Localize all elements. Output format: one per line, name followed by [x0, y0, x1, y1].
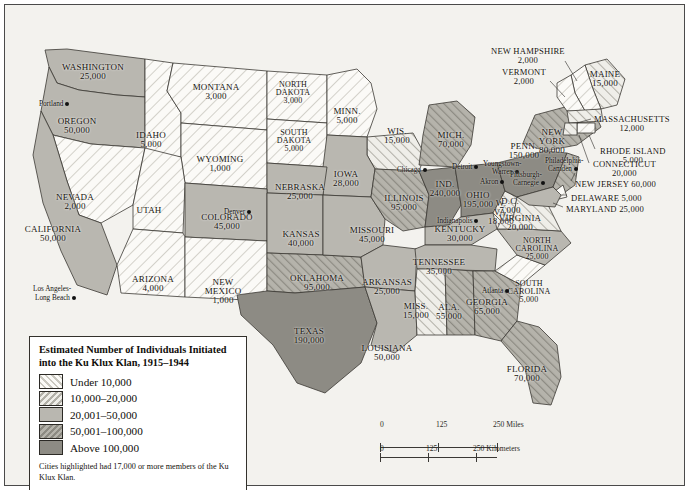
legend-swatch [39, 407, 63, 422]
city-name: Long Beach [35, 294, 70, 302]
state-shape-florida [501, 321, 561, 405]
scale-tick-label-km: 250 Kilometers [473, 444, 520, 453]
legend-title-line2: into the Ku Klux Klan, 1915–1944 [39, 357, 189, 368]
city-name: Portland [39, 100, 63, 108]
city-dot [574, 167, 578, 171]
legend-label: Above 100,000 [70, 442, 139, 454]
state-shape-iowa [323, 135, 375, 197]
state-shape-oklahoma [267, 253, 365, 293]
scale-tick-label-km: 0 [380, 444, 384, 453]
legend-swatch [39, 374, 63, 389]
state-shape-minnesota [327, 69, 377, 137]
city-dot [500, 180, 504, 184]
city-label: Long Beach [35, 294, 76, 302]
city-name: Chicago [397, 166, 421, 174]
state-shape-north-carolina [497, 229, 571, 265]
state-shape-michigan [419, 101, 475, 167]
map-figure: WASHINGTON25,000OREGON50,000IDAHO5,000MO… [0, 0, 689, 490]
scale-km-ruler [380, 453, 555, 462]
city-label: Atlanta [482, 287, 509, 295]
state-shape-texas [237, 287, 377, 393]
legend-row: 10,000–20,000 [39, 391, 237, 406]
state-shape-kansas [267, 193, 323, 255]
city-dot [247, 210, 251, 214]
scale-tick-label-miles: 0 [380, 420, 384, 429]
legend-swatch [39, 424, 63, 439]
state-shape-alabama [445, 269, 475, 335]
legend-label: Under 10,000 [70, 376, 132, 388]
legend-swatch [39, 440, 63, 455]
state-shape-wyoming [181, 123, 267, 189]
city-name: Camden [548, 165, 572, 173]
state-shape-nebraska [267, 163, 327, 195]
city-label: Denver [224, 208, 251, 216]
city-dot [474, 165, 478, 169]
city-name: Denver [224, 208, 245, 216]
city-dot [65, 102, 69, 106]
state-shape-new-mexico [185, 237, 267, 301]
city-name: Los Angeles- [33, 285, 71, 293]
state-shape-montana [167, 63, 267, 130]
city-label: Indianapolis [437, 217, 478, 225]
legend-row: 50,001–100,000 [39, 424, 237, 439]
state-shape-tennessee [415, 245, 497, 271]
city-name: Indianapolis [437, 217, 473, 225]
legend-title-line1: Estimated Number of Individuals Initiate… [39, 344, 226, 355]
city-label: Camden [548, 165, 578, 173]
city-name: Akron [480, 178, 498, 186]
legend-swatch [39, 391, 63, 406]
legend-rows: Under 10,00010,000–20,00020,001–50,00050… [39, 374, 237, 455]
legend-row: 20,001–50,000 [39, 407, 237, 422]
legend-note: Cities highlighted had 17,000 or more me… [39, 461, 237, 483]
city-name: Detroit [452, 163, 472, 171]
legend-row: Under 10,000 [39, 374, 237, 389]
legend-label: 20,001–50,000 [70, 409, 137, 421]
state-shape-rhode-island [577, 123, 595, 133]
city-label: Portland [39, 100, 69, 108]
city-name: Carnegie [513, 179, 539, 187]
state-shape-arizona [117, 229, 185, 297]
map-legend: Estimated Number of Individuals Initiate… [29, 336, 247, 490]
state-shape-north-dakota [267, 71, 327, 123]
state-shape-connecticut [563, 123, 577, 135]
legend-title: Estimated Number of Individuals Initiate… [39, 344, 237, 369]
city-label: Akron [480, 178, 504, 186]
scale-tick-label-km: 125 [426, 444, 437, 453]
city-label: Carnegie [513, 179, 545, 187]
city-label: Detroit [452, 163, 478, 171]
state-shape-mississippi [415, 269, 447, 335]
legend-label: 10,000–20,000 [70, 392, 137, 404]
city-dot [505, 289, 509, 293]
city-dot [474, 219, 478, 223]
map-frame: WASHINGTON25,000OREGON50,000IDAHO5,000MO… [4, 4, 685, 486]
scale-miles-ruler [380, 443, 555, 452]
state-shape-south-dakota [267, 119, 327, 167]
legend-row: Above 100,000 [39, 440, 237, 455]
scale-bar: 0125250 Miles0125250 Kilometers [380, 442, 555, 463]
city-dot [541, 181, 545, 185]
city-label: Chicago [397, 166, 427, 174]
city-dot [423, 168, 427, 172]
city-dot [72, 296, 76, 300]
legend-label: 50,001–100,000 [70, 425, 143, 437]
scale-tick-label-miles: 250 Miles [493, 420, 524, 429]
city-name: Atlanta [482, 287, 503, 295]
city-label: Los Angeles- [33, 285, 71, 293]
scale-tick-label-miles: 125 [436, 420, 447, 429]
